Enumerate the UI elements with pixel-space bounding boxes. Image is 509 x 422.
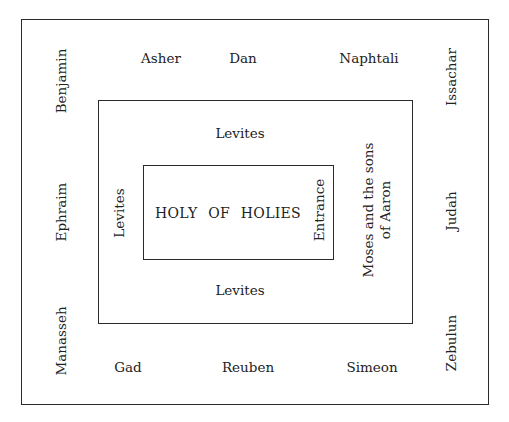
moses-line-1: Moses and the sons [360,143,376,278]
entrance-label: Entrance [313,179,327,242]
tribe-reuben: Reuben [222,361,274,375]
levites-north: Levites [215,127,264,141]
levites-south: Levites [215,284,264,298]
moses-and-sons-of-aaron: Moses and the sonsof Aaron [360,143,394,278]
tribe-judah: Judah [445,191,459,231]
tribe-zebulun: Zebulun [445,315,459,371]
moses-line-2: of Aaron [377,181,393,240]
levites-west: Levites [113,188,127,237]
tribe-simeon: Simeon [346,361,397,375]
tribe-manasseh: Manasseh [55,306,69,375]
tribe-asher: Asher [141,52,181,66]
cut-off-running-header [95,0,495,1]
holy-of-holies-label: HOLY OF HOLIES [155,206,301,220]
tribe-ephraim: Ephraim [55,183,69,242]
tribe-dan: Dan [229,52,257,66]
tribe-naphtali: Naphtali [339,52,398,66]
tribe-gad: Gad [114,361,141,375]
tribe-issachar: Issachar [445,48,459,106]
tribe-benjamin: Benjamin [55,49,69,114]
